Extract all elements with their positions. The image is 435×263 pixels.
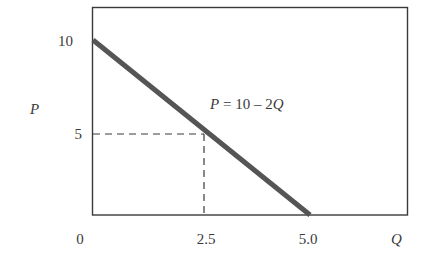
x-tick-2-5: 2.5 xyxy=(197,231,216,247)
x-tick-5-0: 5.0 xyxy=(299,231,318,247)
x-tick-0: 0 xyxy=(76,231,84,247)
equation-label: P = 10 – 2Q xyxy=(209,96,284,112)
y-tick-5: 5 xyxy=(75,126,83,142)
equation-q: Q xyxy=(273,96,284,112)
demand-line xyxy=(93,40,310,215)
y-axis-label: P xyxy=(29,101,39,117)
demand-chart: P Q 10 5 0 2.5 5.0 P = 10 – 2Q xyxy=(0,0,435,263)
equation-p: P xyxy=(209,96,219,112)
x-axis-label: Q xyxy=(391,231,402,247)
y-tick-10: 10 xyxy=(58,33,73,49)
equation-body: = 10 – 2 xyxy=(219,96,272,112)
